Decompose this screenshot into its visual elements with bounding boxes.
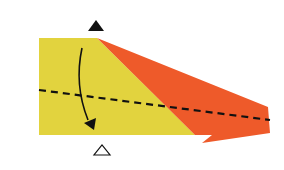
filled-triangle-marker-icon xyxy=(88,20,104,31)
hollow-triangle-marker-icon xyxy=(94,145,110,155)
origami-diagram xyxy=(0,0,284,170)
